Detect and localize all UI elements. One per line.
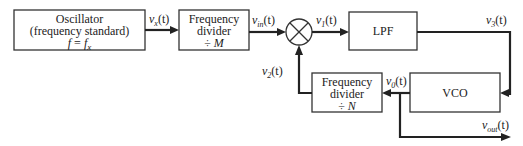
signal-v1-label: v1(t) bbox=[316, 13, 337, 29]
oscillator-block: Oscillator (frequency standard) f = fx bbox=[14, 10, 145, 52]
arrow-vin bbox=[277, 28, 286, 36]
lpf-label: LPF bbox=[373, 24, 394, 38]
divider-m-ratio: ÷ M bbox=[204, 36, 225, 50]
signal-vin-label: vin(t) bbox=[252, 13, 275, 29]
vco-label: VCO bbox=[442, 86, 468, 100]
frequency-divider-n-block: Frequency divider ÷ N bbox=[312, 73, 382, 113]
mixer-block bbox=[286, 19, 312, 45]
signal-vout-label: vout(t) bbox=[482, 118, 509, 134]
frequency-divider-m-block: Frequency divider ÷ M bbox=[179, 10, 249, 50]
wire-v2 bbox=[299, 53, 312, 93]
pll-diagram: Oscillator (frequency standard) f = fx v… bbox=[0, 0, 523, 146]
signal-v2-label: v2(t) bbox=[262, 64, 283, 80]
arrow-v1 bbox=[340, 28, 349, 36]
arrow-vx bbox=[170, 26, 179, 34]
arrow-vout bbox=[501, 133, 511, 141]
arrow-v0 bbox=[382, 89, 391, 97]
divider-n-ratio: ÷ N bbox=[338, 99, 357, 113]
signal-v0-label: v0(t) bbox=[386, 74, 407, 90]
arrow-v3 bbox=[500, 89, 509, 97]
vco-block: VCO bbox=[410, 73, 500, 112]
signal-v3-label: v3(t) bbox=[486, 13, 507, 29]
arrow-v2 bbox=[295, 45, 303, 55]
signal-vx-label: vx(t) bbox=[149, 12, 169, 28]
lpf-block: LPF bbox=[349, 12, 417, 50]
fx-subscript: x bbox=[86, 42, 91, 52]
equals-sign: = bbox=[71, 36, 84, 50]
